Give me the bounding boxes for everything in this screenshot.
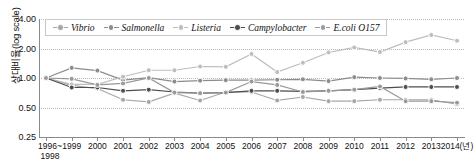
- x-tick-label: 2006: [242, 142, 261, 152]
- legend-label: Listeria: [191, 23, 221, 33]
- data-point: [300, 77, 305, 82]
- legend-item-salmonella[interactable]: Salmonella: [104, 23, 165, 33]
- y-tick-label: 0.50: [2, 103, 36, 112]
- data-point: [429, 32, 434, 37]
- data-point: [275, 70, 280, 75]
- y-tick-label: 4.00: [2, 15, 36, 24]
- data-point: [377, 50, 382, 55]
- data-point: [352, 45, 357, 50]
- data-point: [429, 84, 434, 89]
- data-point: [146, 99, 151, 104]
- data-point: [44, 76, 49, 81]
- data-point: [249, 88, 254, 93]
- data-point: [172, 79, 177, 84]
- legend-marker-icon: [104, 23, 119, 32]
- data-point: [403, 99, 408, 104]
- y-axis-tick-labels: 4.00 2.00 1.00 0.50 0.25: [0, 0, 36, 166]
- data-point: [300, 89, 305, 94]
- legend-label: Campylobacter: [248, 23, 307, 33]
- data-point: [300, 94, 305, 99]
- x-tick-label: 2012: [396, 142, 415, 152]
- x-tick-label: 2000: [88, 142, 107, 152]
- data-point: [172, 68, 177, 73]
- data-point: [172, 90, 177, 95]
- legend-label: Salmonella: [122, 23, 165, 33]
- x-tick-label: 2002: [139, 142, 158, 152]
- data-point: [146, 76, 151, 81]
- data-point: [198, 64, 203, 69]
- data-point: [198, 98, 203, 103]
- x-tick-label: 2013: [422, 142, 441, 152]
- data-point: [455, 76, 460, 81]
- data-point: [300, 60, 305, 65]
- data-point: [146, 68, 151, 73]
- legend-marker-icon: [315, 23, 330, 32]
- data-point: [249, 51, 254, 56]
- data-point: [352, 87, 357, 92]
- data-point: [69, 65, 74, 70]
- legend-label: E.coli O157: [333, 23, 379, 33]
- data-point: [69, 85, 74, 90]
- data-point: [377, 76, 382, 81]
- data-point: [429, 99, 434, 104]
- data-point: [403, 40, 408, 45]
- data-point: [198, 78, 203, 83]
- legend-item-listeria[interactable]: Listeria: [173, 23, 221, 33]
- y-axis-line: [39, 19, 40, 138]
- data-point: [95, 82, 100, 87]
- data-point: [121, 97, 126, 102]
- data-point: [223, 64, 228, 69]
- data-point: [121, 74, 126, 79]
- chart-container: 상대비율(log scale) 4.00 2.00 1.00 0.50 0.25…: [0, 0, 474, 166]
- x-tick-label: 1996~ 1998: [35, 142, 65, 162]
- legend-marker-icon: [53, 23, 68, 32]
- x-tick-label: 2010: [345, 142, 364, 152]
- data-point: [326, 50, 331, 55]
- data-point: [121, 81, 126, 86]
- legend-label: Vibrio: [71, 23, 95, 33]
- x-tick-label: 2014(년): [441, 142, 474, 152]
- data-point: [223, 78, 228, 83]
- plot-area: [39, 19, 464, 137]
- data-point: [146, 87, 151, 92]
- data-point: [198, 91, 203, 96]
- data-point: [377, 97, 382, 102]
- series-lines: [39, 19, 464, 137]
- x-tick-label: 2008: [293, 142, 312, 152]
- x-tick-label: 2009: [319, 142, 338, 152]
- legend-item-e-coli-o157[interactable]: E.coli O157: [315, 23, 379, 33]
- data-point: [275, 98, 280, 103]
- y-tick-label: 1.00: [2, 74, 36, 83]
- data-point: [455, 100, 460, 105]
- data-point: [69, 76, 74, 81]
- x-tick-label: 1999: [62, 142, 81, 152]
- x-tick-label: 2003: [165, 142, 184, 152]
- data-point: [249, 79, 254, 84]
- data-point: [275, 82, 280, 87]
- legend-item-vibrio[interactable]: Vibrio: [53, 23, 95, 33]
- data-point: [121, 88, 126, 93]
- data-point: [352, 99, 357, 104]
- x-tick-label: 2007: [268, 142, 287, 152]
- data-point: [95, 68, 100, 73]
- y-tick-label: 0.25: [2, 133, 36, 142]
- data-point: [326, 88, 331, 93]
- y-tick-label: 2.00: [2, 44, 36, 53]
- data-point: [275, 88, 280, 93]
- data-point: [275, 77, 280, 82]
- data-point: [455, 38, 460, 43]
- data-point: [377, 84, 382, 89]
- data-point: [455, 84, 460, 89]
- x-tick-label: 2001: [114, 142, 133, 152]
- data-point: [223, 90, 228, 95]
- data-point: [326, 99, 331, 104]
- data-point: [403, 76, 408, 81]
- data-point: [326, 79, 331, 84]
- legend-item-campylobacter[interactable]: Campylobacter: [230, 23, 307, 33]
- legend-marker-icon: [173, 23, 188, 32]
- x-tick-label: 2004: [191, 142, 210, 152]
- data-point: [352, 75, 357, 80]
- data-point: [403, 84, 408, 89]
- chart-legend: VibrioSalmonellaListeriaCampylobacterE.c…: [45, 19, 387, 36]
- legend-marker-icon: [230, 23, 245, 32]
